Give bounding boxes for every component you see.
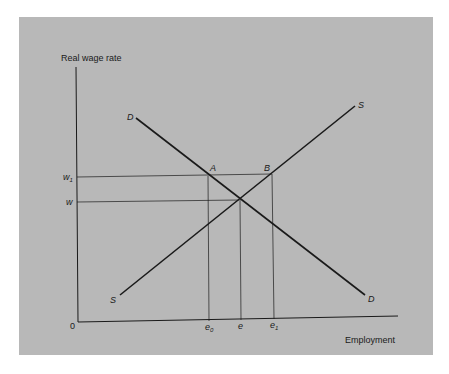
demand-curve [136,118,365,295]
x-axis-label: Employment [345,335,396,345]
point-b-label: B [264,163,270,173]
e0-guide [208,176,209,321]
demand-top-label: D [127,112,134,122]
w1-guide [77,174,272,177]
supply-top-label: S [358,100,364,110]
w-label: w [66,197,73,207]
w-guide [77,200,239,202]
e1-guide [272,174,274,319]
supply-bottom-label: S [110,295,116,305]
demand-bottom-label: D [368,294,375,304]
origin-label: 0 [70,321,75,331]
e0-label: e0 [205,322,214,333]
supply-curve [120,106,355,295]
w1-label: w1 [63,172,73,183]
e-label: e [238,321,243,331]
y-axis-label: Real wage rate [61,53,122,63]
y-axis [76,67,78,322]
e1-label: e1 [270,320,278,331]
point-a-label: A [209,163,216,173]
labor-market-diagram: Real wage rate Employment 0 w1 w e0 e e1… [0,0,449,374]
e-guide [240,200,241,320]
